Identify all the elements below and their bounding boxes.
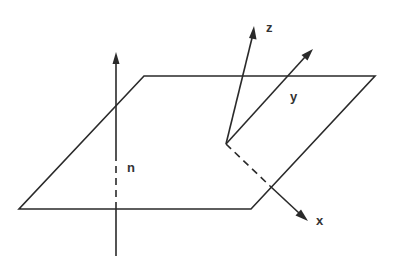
z-axis-arrowhead-icon	[249, 26, 257, 40]
x-axis-label: x	[316, 213, 324, 228]
normal-arrowhead-icon	[113, 52, 120, 64]
normal-label: n	[127, 160, 135, 175]
plane-parallelogram	[19, 76, 375, 209]
plane-normal-frame-diagram: n z y x	[0, 0, 397, 269]
z-axis-line	[226, 36, 253, 144]
y-axis-label: y	[290, 89, 298, 104]
normal-vector-n: n	[113, 52, 136, 256]
z-axis-label: z	[266, 20, 273, 35]
x-axis-line-hidden	[226, 144, 270, 186]
coordinate-frame: z y x	[226, 20, 324, 228]
x-axis-line-visible	[270, 186, 299, 213]
